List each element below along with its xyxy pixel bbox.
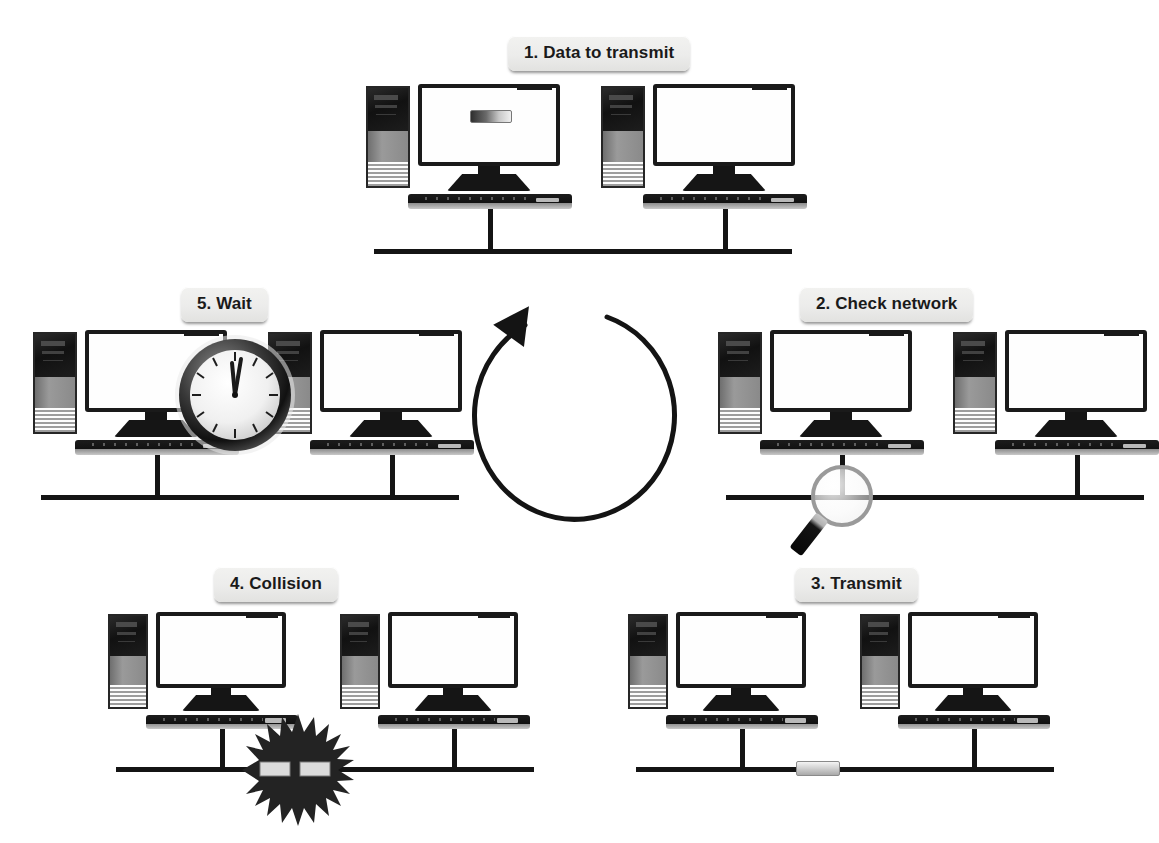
tower-drive-bays	[955, 408, 995, 432]
network-bus-line	[726, 495, 1144, 500]
monitor-screen	[156, 612, 286, 688]
computer-keyboard	[408, 194, 572, 209]
tower-drive-bays	[630, 685, 666, 707]
tower-top-panel	[110, 616, 146, 658]
tower-top-panel	[35, 334, 75, 379]
tower-top-panel	[862, 616, 898, 658]
monitor-stand-base	[182, 695, 260, 711]
monitor-screen	[320, 330, 462, 412]
computer-tower	[33, 332, 77, 434]
network-group-step-2	[718, 330, 1148, 500]
tower-drive-bays	[720, 408, 760, 432]
computer-monitor	[1005, 330, 1147, 440]
tower-drive-bays	[35, 408, 75, 432]
computer-5b	[268, 330, 463, 450]
computer-tower	[601, 86, 645, 188]
monitor-screen	[676, 612, 806, 688]
monitor-stand-base	[702, 695, 780, 711]
computer-monitor	[156, 612, 286, 715]
computer-keyboard	[643, 194, 807, 209]
computer-keyboard	[378, 715, 530, 729]
drop-line	[972, 729, 977, 769]
step-label-1: 1. Data to transmit	[508, 36, 690, 71]
monitor-stand-base	[447, 174, 531, 191]
tower-mid-panel	[720, 377, 760, 408]
computer-2a	[718, 330, 913, 450]
step-label-3: 3. Transmit	[795, 567, 918, 602]
computer-monitor	[676, 612, 806, 715]
tower-drive-bays	[110, 685, 146, 707]
tower-drive-bays	[368, 162, 408, 186]
drop-line	[390, 455, 395, 497]
drop-line	[452, 729, 457, 769]
computer-4a	[108, 612, 286, 724]
tower-drive-bays	[603, 162, 643, 186]
computer-1b	[601, 84, 796, 204]
tower-mid-panel	[368, 131, 408, 162]
computer-monitor	[908, 612, 1038, 715]
network-bus-line	[374, 249, 792, 254]
tower-drive-bays	[342, 685, 378, 707]
tower-top-panel	[955, 334, 995, 379]
drop-line	[740, 729, 745, 769]
tower-top-panel	[368, 88, 408, 133]
network-group-step-3	[628, 612, 1058, 782]
monitor-stand-base	[934, 695, 1012, 711]
computer-tower	[340, 614, 380, 709]
step-label-4: 4. Collision	[214, 567, 338, 602]
drop-line	[220, 729, 225, 769]
computer-tower	[953, 332, 997, 434]
step-label-2: 2. Check network	[800, 287, 973, 322]
data-packet-icon	[796, 761, 840, 776]
drop-line	[155, 455, 160, 497]
tower-mid-panel	[110, 656, 146, 685]
computer-monitor	[320, 330, 462, 440]
data-packet-icon	[470, 110, 512, 123]
tower-mid-panel	[342, 656, 378, 685]
tower-top-panel	[603, 88, 643, 133]
computer-monitor	[770, 330, 912, 440]
tower-mid-panel	[603, 131, 643, 162]
monitor-screen	[418, 84, 560, 166]
monitor-stand-base	[799, 420, 883, 437]
network-group-step-5	[33, 330, 463, 500]
monitor-stand-base	[682, 174, 766, 191]
computer-2b	[953, 330, 1148, 450]
computer-tower	[366, 86, 410, 188]
drop-line	[723, 209, 728, 251]
monitor-screen	[770, 330, 912, 412]
monitor-stand-base	[349, 420, 433, 437]
computer-tower	[718, 332, 762, 434]
computer-4b	[340, 612, 518, 724]
magnifying-glass-icon	[811, 465, 911, 575]
network-group-step-1	[366, 84, 796, 254]
collision-starburst-icon	[240, 712, 356, 828]
network-bus-line	[636, 767, 1054, 772]
computer-keyboard	[666, 715, 818, 729]
computer-tower	[860, 614, 900, 709]
monitor-stand-base	[414, 695, 492, 711]
computer-keyboard	[760, 440, 924, 455]
computer-monitor	[418, 84, 560, 194]
tower-mid-panel	[35, 377, 75, 408]
tower-mid-panel	[630, 656, 666, 685]
computer-tower	[628, 614, 668, 709]
computer-monitor	[653, 84, 795, 194]
network-group-step-4	[108, 612, 538, 782]
computer-3a	[628, 612, 806, 724]
computer-keyboard	[995, 440, 1159, 455]
monitor-stand-base	[1034, 420, 1118, 437]
monitor-screen	[1005, 330, 1147, 412]
analog-clock-icon	[173, 333, 297, 457]
computer-tower	[108, 614, 148, 709]
computer-keyboard	[898, 715, 1050, 729]
computer-1a	[366, 84, 561, 204]
tower-top-panel	[342, 616, 378, 658]
computer-monitor	[388, 612, 518, 715]
monitor-screen	[388, 612, 518, 688]
tower-drive-bays	[862, 685, 898, 707]
tower-top-panel	[630, 616, 666, 658]
network-bus-line	[41, 495, 459, 500]
monitor-screen	[908, 612, 1038, 688]
